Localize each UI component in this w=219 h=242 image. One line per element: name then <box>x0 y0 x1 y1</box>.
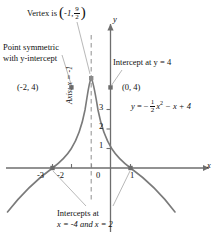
y-tick-label-2: 2 <box>99 121 103 131</box>
left-paren: ( <box>59 4 64 20</box>
vertex-frac-den: 2 <box>74 14 80 22</box>
y-tick-label-3: 3 <box>99 102 103 112</box>
y-intercept-annotation: Intercept at y = 4 <box>113 57 171 68</box>
x-tick-label-1: 1 <box>130 170 134 180</box>
right-paren: ) <box>81 4 86 20</box>
y-tick-label-1: 1 <box>99 140 103 150</box>
symmetric-line-1: Point symmetric <box>3 42 59 53</box>
x-intercepts-annotation: Intercepts at x = -4 and x = 2 <box>57 208 113 230</box>
leader-xint-right <box>113 171 130 206</box>
parabola-figure: Vertex is (-1,92) Point symmetric with y… <box>0 0 219 242</box>
x-tick-label-minus3: -3 <box>37 170 44 180</box>
y-axis-label: y <box>113 14 117 24</box>
point-label-0-4: (0, 4) <box>122 82 140 93</box>
intercepts-line-1: Intercepts at <box>57 208 113 219</box>
x-tick-label-minus2: -2 <box>57 170 64 180</box>
equation-frac-den: 2 <box>150 107 156 115</box>
vertex-prefix: Vertex is <box>27 8 57 18</box>
equation-neg: − <box>144 101 149 111</box>
vertex-comma: , <box>71 8 73 18</box>
intercepts-line-2: x = -4 and x = 2 <box>57 219 113 230</box>
equation-rest: − x + 4 <box>165 101 191 111</box>
point-marker-xint-left <box>50 166 54 170</box>
axis-of-symmetry-label: Axis: x = -1 <box>64 66 75 104</box>
point-marker-0-4 <box>108 85 112 89</box>
vertex-fraction: 92 <box>74 6 80 22</box>
equation-fraction: 12 <box>150 99 156 115</box>
equation-equals: = <box>137 101 142 111</box>
equation-label: y = −12x2 − x + 4 <box>131 99 191 115</box>
x-axis-label: x <box>207 160 211 170</box>
point-marker-vertex <box>89 76 93 80</box>
plot-canvas <box>0 0 219 242</box>
symmetric-line-2: with y-intercept <box>3 53 59 64</box>
origin-label: 0 <box>96 170 100 180</box>
leader-vertex <box>77 22 90 74</box>
leader-intercept-y <box>111 70 122 86</box>
equation-exponent: 2 <box>160 100 163 106</box>
symmetric-point-annotation: Point symmetric with y-intercept <box>3 42 59 64</box>
point-label-minus2-4: (-2, 4) <box>17 82 38 93</box>
vertex-annotation: Vertex is (-1,92) <box>27 6 86 22</box>
equation-lhs: y <box>131 101 135 111</box>
